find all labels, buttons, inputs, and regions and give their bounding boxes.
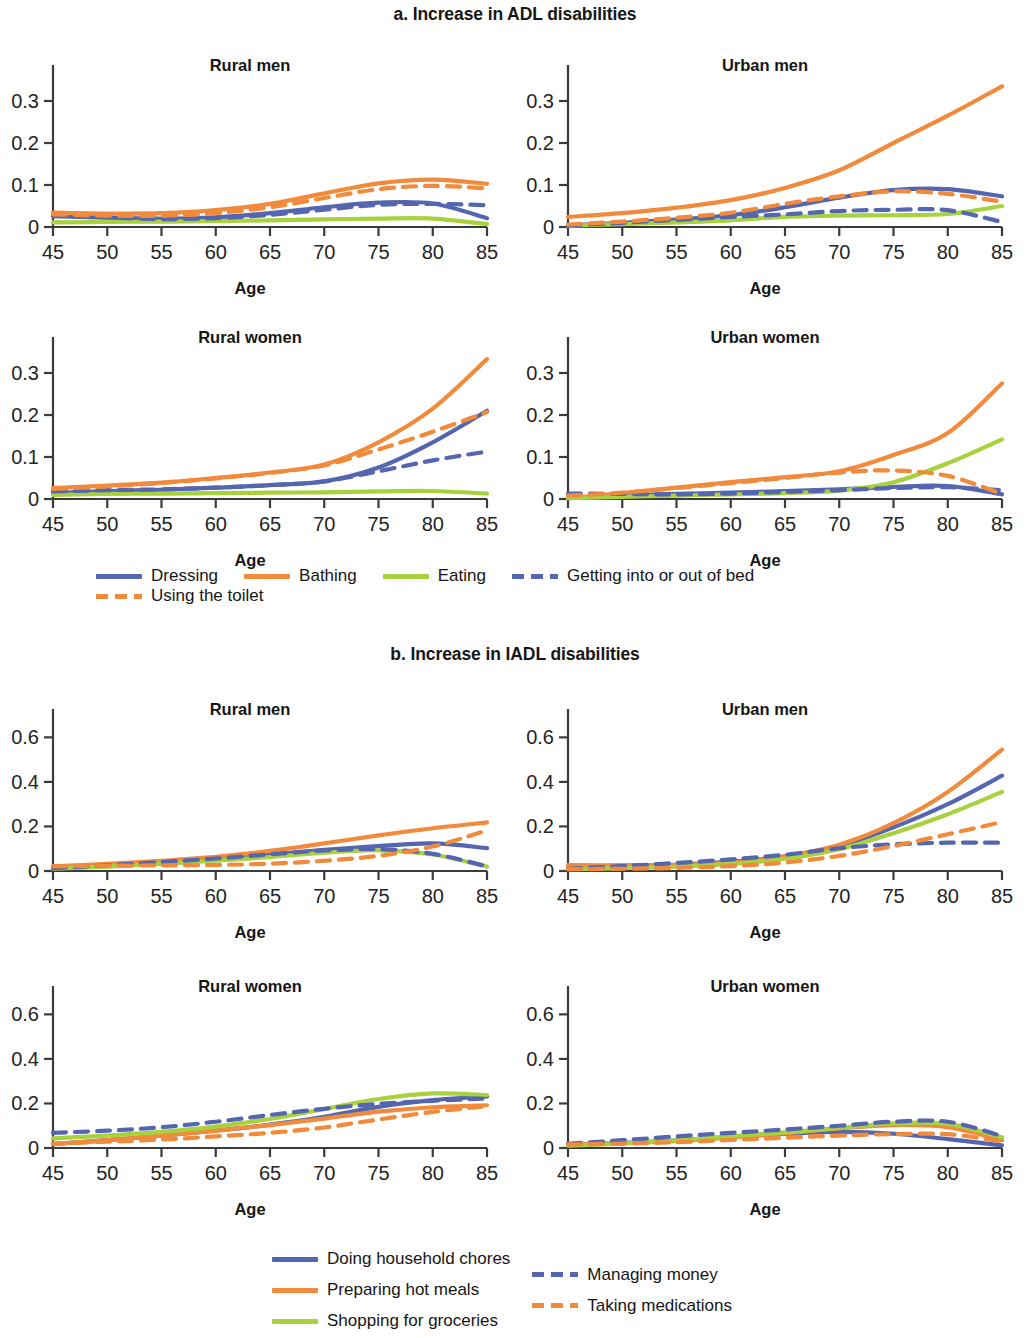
x-axis-label: Age: [515, 923, 1015, 942]
x-tick-label: 50: [611, 885, 633, 907]
y-tick-label: 0: [543, 216, 554, 238]
x-tick-label: 55: [150, 885, 172, 907]
x-tick-label: 70: [828, 513, 850, 535]
y-tick-label: 0.2: [11, 404, 39, 426]
x-tick-label: 75: [882, 241, 904, 263]
legend-item-label: Managing money: [587, 1265, 717, 1285]
x-tick-label: 85: [476, 885, 498, 907]
legend-item[interactable]: Bathing: [244, 566, 357, 586]
y-tick-label: 0.6: [526, 1003, 554, 1025]
x-tick-label: 85: [991, 513, 1013, 535]
y-tick-label: 0.6: [526, 726, 554, 748]
x-tick-label: 85: [991, 241, 1013, 263]
legend-adl: DressingBathingEatingGetting into or out…: [96, 566, 956, 606]
y-tick-label: 0.3: [526, 90, 554, 112]
legend-item[interactable]: Managing money: [532, 1265, 732, 1285]
x-tick-label: 85: [476, 241, 498, 263]
x-tick-label: 85: [991, 885, 1013, 907]
x-tick-label: 55: [665, 241, 687, 263]
series-line: [53, 412, 487, 489]
legend-item[interactable]: Eating: [383, 566, 486, 586]
x-tick-label: 65: [259, 885, 281, 907]
legend-swatch-dashed: [532, 1303, 578, 1308]
panel-title: Rural men: [0, 56, 500, 75]
x-tick-label: 70: [313, 1162, 335, 1184]
legend-swatch-solid: [272, 1288, 318, 1293]
x-tick-label: 50: [611, 1162, 633, 1184]
legend-item-label: Taking medications: [587, 1296, 732, 1316]
x-tick-label: 80: [422, 513, 444, 535]
panel-title: Rural women: [0, 977, 500, 996]
x-tick-label: 45: [42, 513, 64, 535]
legend-item[interactable]: Getting into or out of bed: [512, 566, 754, 586]
panel-adl-urban-women: 00.10.20.3455055606570758085 Urban women…: [515, 296, 1015, 576]
legend-item[interactable]: Doing household chores: [272, 1249, 510, 1269]
x-tick-label: 50: [96, 885, 118, 907]
y-tick-label: 0.1: [11, 174, 39, 196]
y-tick-label: 0.2: [526, 132, 554, 154]
x-axis-label: Age: [0, 923, 500, 942]
y-tick-label: 0: [543, 860, 554, 882]
section-b-title: b. Increase in IADL disabilities: [0, 644, 1030, 665]
legend-item[interactable]: Shopping for groceries: [272, 1311, 510, 1331]
x-tick-label: 45: [42, 241, 64, 263]
panel-adl-rural-women: 00.10.20.3455055606570758085 Rural women…: [0, 296, 500, 576]
legend-item-label: Using the toilet: [151, 586, 263, 606]
panel-title: Rural women: [0, 328, 500, 347]
x-tick-label: 75: [367, 1162, 389, 1184]
y-tick-label: 0.1: [526, 174, 554, 196]
legend-item[interactable]: Taking medications: [532, 1296, 732, 1316]
x-tick-label: 60: [205, 241, 227, 263]
dash-pattern: [96, 594, 142, 599]
x-tick-label: 50: [96, 241, 118, 263]
x-tick-label: 60: [205, 885, 227, 907]
x-tick-label: 80: [422, 241, 444, 263]
series-line: [53, 359, 487, 488]
legend-item[interactable]: Dressing: [96, 566, 218, 586]
y-tick-label: 0: [543, 1137, 554, 1159]
x-tick-label: 70: [313, 513, 335, 535]
x-tick-label: 65: [259, 1162, 281, 1184]
y-tick-label: 0.4: [11, 1048, 39, 1070]
legend-iadl: Doing household choresPreparing hot meal…: [272, 1249, 832, 1331]
x-tick-label: 50: [611, 513, 633, 535]
panel-iadl-rural-women: 00.20.40.6455055606570758085 Rural women…: [0, 945, 500, 1225]
legend-swatch-dashed: [532, 1272, 578, 1277]
y-tick-label: 0: [28, 488, 39, 510]
legend-item[interactable]: Preparing hot meals: [272, 1280, 510, 1300]
y-tick-label: 0.4: [526, 1048, 554, 1070]
x-tick-label: 55: [665, 1162, 687, 1184]
y-tick-label: 0.1: [526, 446, 554, 468]
series-line: [53, 1099, 487, 1133]
section-a-title: a. Increase in ADL disabilities: [0, 4, 1030, 25]
x-tick-label: 60: [720, 513, 742, 535]
x-tick-label: 45: [42, 1162, 64, 1184]
panel-title: Urban women: [515, 977, 1015, 996]
panel-iadl-urban-men: 00.20.40.6455055606570758085 Urban men A…: [515, 668, 1015, 948]
x-tick-label: 55: [150, 513, 172, 535]
y-tick-label: 0.3: [11, 362, 39, 384]
panel-title: Urban men: [515, 700, 1015, 719]
x-tick-label: 65: [774, 513, 796, 535]
legend-item[interactable]: Using the toilet: [96, 586, 263, 606]
panel-adl-urban-men: 00.10.20.3455055606570758085 Urban men A…: [515, 24, 1015, 304]
y-tick-label: 0: [28, 860, 39, 882]
x-tick-label: 70: [313, 885, 335, 907]
legend-item-label: Bathing: [299, 566, 357, 586]
x-tick-label: 45: [557, 885, 579, 907]
y-tick-label: 0.3: [526, 362, 554, 384]
y-tick-label: 0.2: [526, 1092, 554, 1114]
x-tick-label: 60: [205, 513, 227, 535]
x-tick-label: 45: [557, 241, 579, 263]
series-line: [53, 411, 487, 493]
legend-swatch-solid: [383, 574, 429, 579]
x-tick-label: 75: [882, 1162, 904, 1184]
panel-adl-rural-men: 00.10.20.3455055606570758085 Rural men A…: [0, 24, 500, 304]
x-tick-label: 80: [937, 513, 959, 535]
legend-swatch-solid: [272, 1257, 318, 1262]
panel-iadl-rural-men: 00.20.40.6455055606570758085 Rural men A…: [0, 668, 500, 948]
legend-item-label: Preparing hot meals: [327, 1280, 479, 1300]
series-line: [53, 180, 487, 214]
x-tick-label: 80: [937, 241, 959, 263]
y-tick-label: 0: [543, 488, 554, 510]
